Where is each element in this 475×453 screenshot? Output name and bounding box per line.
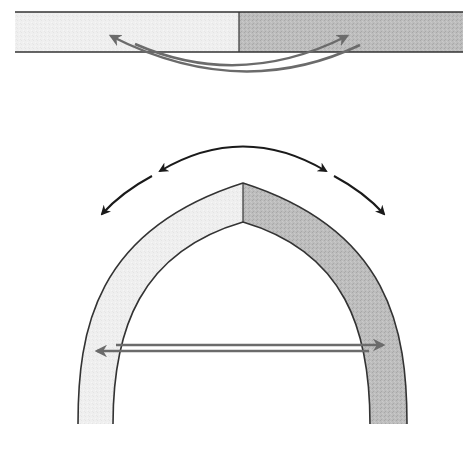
arch	[78, 183, 407, 424]
top-strip-light-segment	[15, 12, 239, 52]
arch-light-segment	[78, 183, 243, 424]
arch-horizontal-arrows	[97, 345, 383, 351]
bend-arrow-center-icon	[160, 147, 326, 172]
bend-arrow-right-icon	[334, 176, 384, 214]
diagram-canvas: Flat bilayer strip with two counter-dire…	[0, 0, 475, 453]
arch-dark-segment	[243, 183, 407, 424]
top-strip	[15, 12, 463, 52]
diagram-svg	[0, 0, 475, 453]
bend-arrow-left-icon	[102, 176, 152, 214]
top-strip-dark-segment	[239, 12, 463, 52]
